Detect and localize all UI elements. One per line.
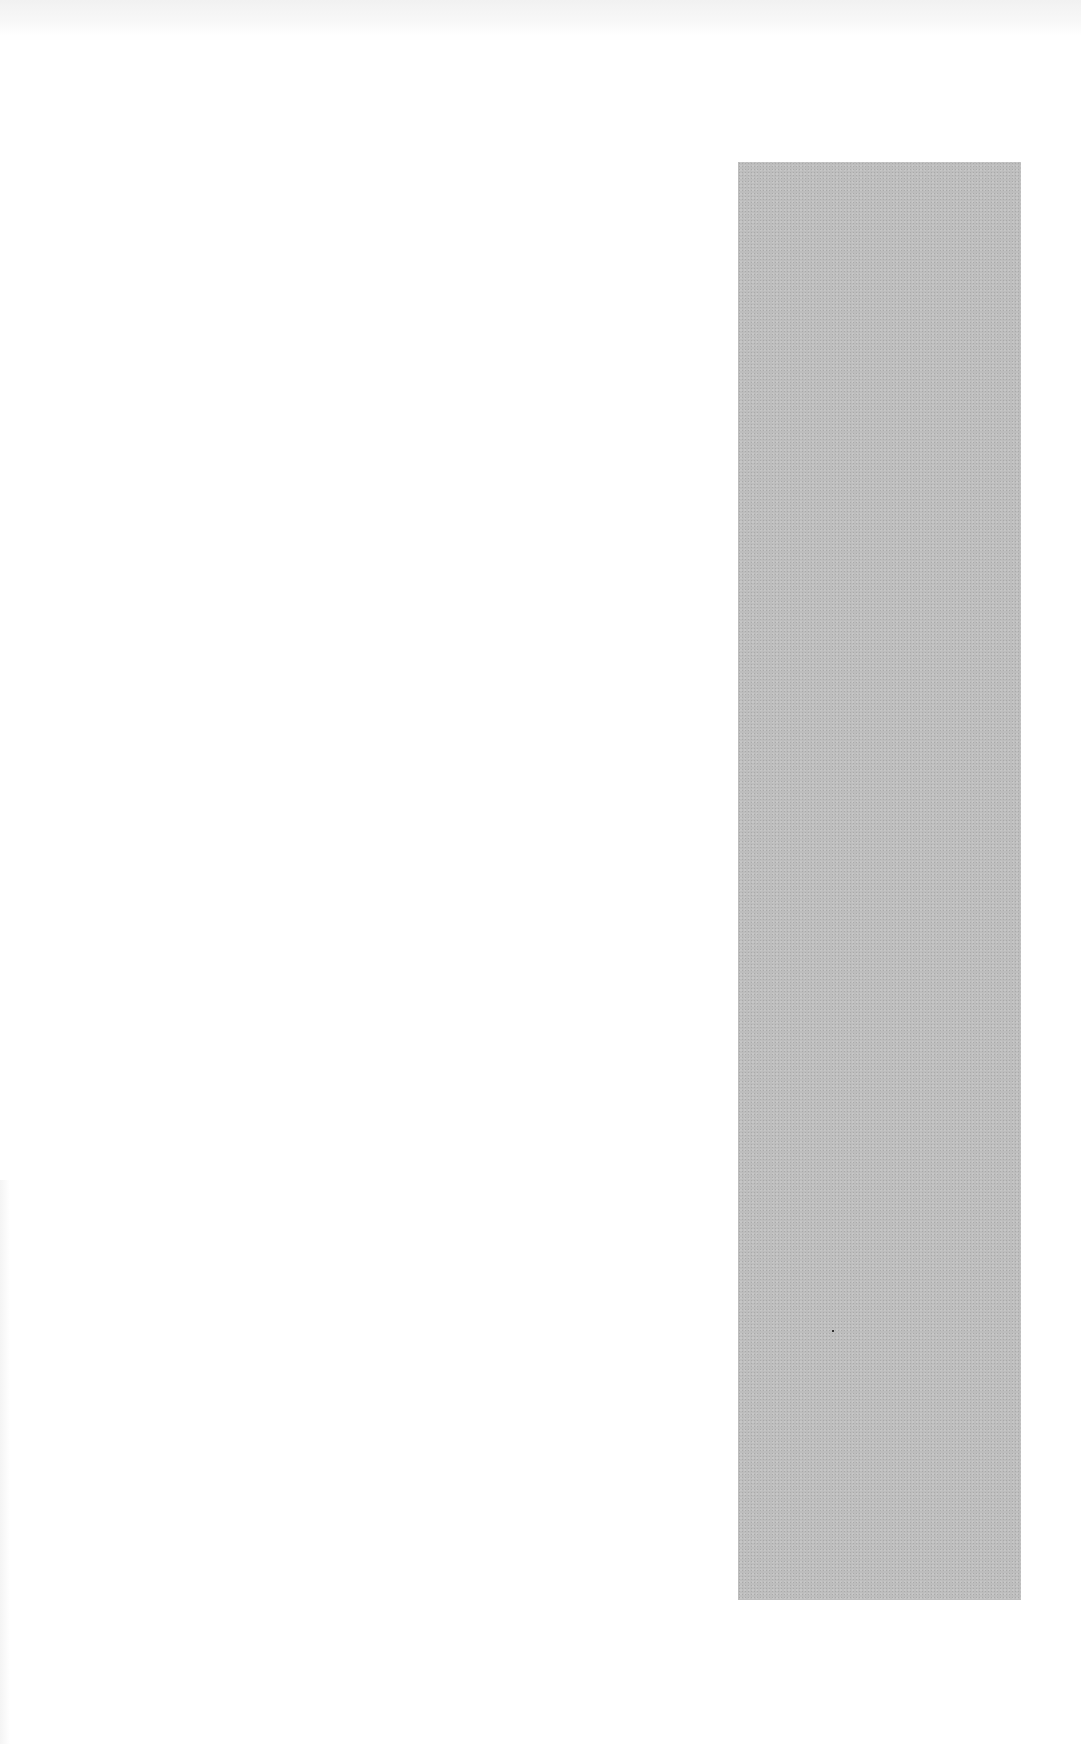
dust-speck — [832, 1330, 834, 1332]
gray-image-block — [738, 162, 1021, 1600]
scanned-page — [0, 0, 1081, 1744]
page-edge-shadow — [0, 1180, 10, 1744]
bleed-through-header — [0, 0, 1081, 36]
